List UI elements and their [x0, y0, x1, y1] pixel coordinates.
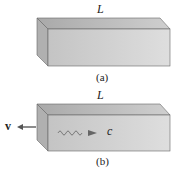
box-a	[37, 18, 170, 66]
boxes-diagram	[0, 0, 178, 173]
velocity-arrow-icon	[17, 124, 36, 130]
caption-b: (b)	[96, 155, 109, 167]
caption-a: (a)	[96, 71, 108, 83]
length-label-a: L	[97, 2, 104, 17]
figure: L (a) L v c (b)	[0, 0, 178, 173]
length-label-b: L	[97, 88, 104, 103]
box-b	[37, 104, 170, 151]
velocity-label: v	[5, 119, 11, 134]
light-speed-label: c	[107, 124, 112, 139]
